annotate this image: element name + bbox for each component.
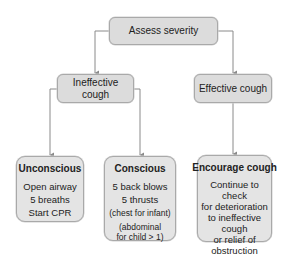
node-assess-severity-label: Assess severity: [129, 25, 198, 37]
edge-assess-to-ineffective: [95, 31, 109, 73]
node-ineffective-cough-label: Ineffective cough: [58, 77, 133, 101]
node-effective-cough: Effective cough: [194, 74, 272, 103]
step-open-airway: Open airway: [23, 180, 76, 193]
step-start-cpr: Start CPR: [29, 206, 72, 219]
note-for-child-over-1: for child > 1): [116, 232, 163, 242]
node-encourage-cough-body: Continue to check for deterioration to i…: [198, 179, 271, 256]
edge-ineffective-to-unconscious: [50, 89, 57, 155]
step-5-thrusts: 5 thrusts: [122, 193, 158, 206]
node-encourage-cough: Encourage cough Continue to check for de…: [197, 155, 272, 242]
edge-ineffective-to-conscious: [134, 89, 140, 155]
choking-flowchart: Assess severity Ineffective cough Effect…: [0, 0, 290, 257]
node-unconscious: Unconscious Open airway 5 breaths Start …: [16, 156, 84, 222]
step-5-breaths: 5 breaths: [30, 193, 70, 206]
note-abdominal: (abdominal: [119, 222, 161, 232]
node-encourage-cough-title: Encourage cough: [192, 162, 276, 174]
note-chest-for-infant: (chest for infant): [109, 208, 170, 218]
node-effective-cough-label: Effective cough: [199, 83, 267, 95]
node-unconscious-title: Unconscious: [19, 163, 82, 175]
node-conscious-title: Conscious: [114, 163, 165, 175]
step-5-back-blows: 5 back blows: [113, 180, 168, 193]
node-ineffective-cough: Ineffective cough: [57, 74, 134, 103]
node-assess-severity: Assess severity: [109, 17, 218, 45]
edge-assess-to-effective: [218, 31, 233, 73]
node-conscious: Conscious 5 back blows 5 thrusts (chest …: [104, 156, 176, 241]
